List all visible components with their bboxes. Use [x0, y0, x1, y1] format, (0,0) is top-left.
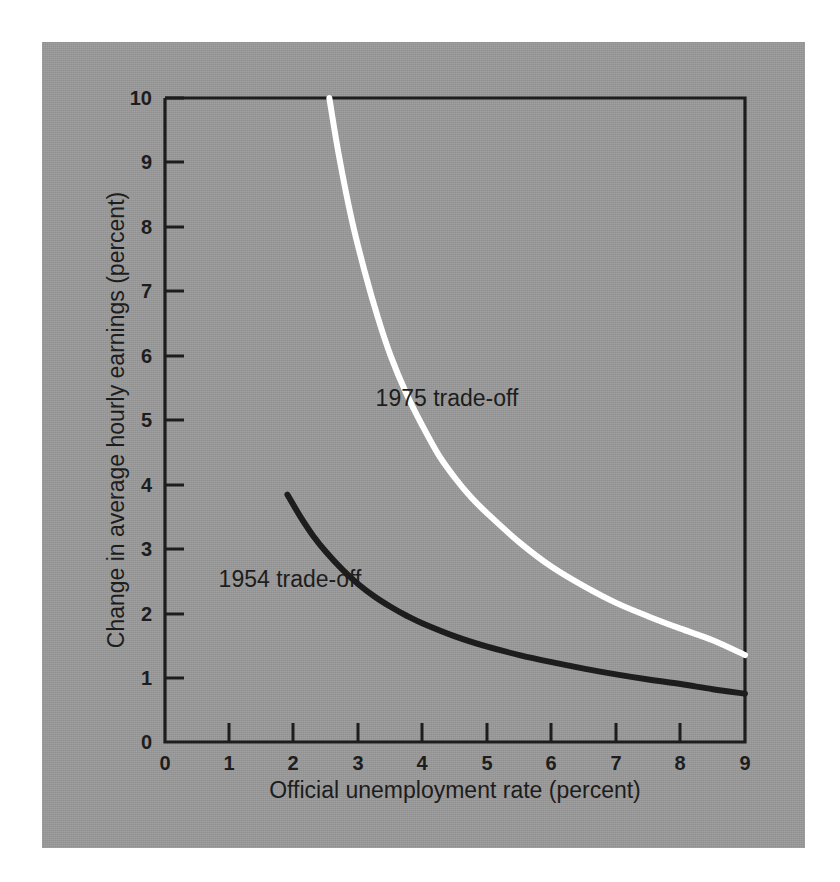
y-tick-label-5: 5 [141, 409, 152, 432]
y-tick-label-8: 8 [141, 216, 152, 239]
x-tick-label-1: 1 [223, 752, 234, 775]
y-tick-label-6: 6 [141, 345, 152, 368]
series-annotation-1954-trade-off: 1954 trade-off [219, 566, 362, 593]
y-tick-label-10: 10 [130, 87, 152, 110]
figure-root: 10 9 8 7 6 5 4 3 2 1 0 0 1 2 3 4 5 6 7 8… [0, 0, 840, 882]
chart-plate-background [42, 42, 805, 848]
x-tick-label-7: 7 [610, 752, 621, 775]
y-tick-label-2: 2 [141, 603, 152, 626]
x-tick-label-2: 2 [287, 752, 298, 775]
y-axis-title: Change in average hourly earnings (perce… [103, 192, 130, 648]
y-tick-label-7: 7 [141, 280, 152, 303]
x-tick-label-6: 6 [545, 752, 556, 775]
x-tick-label-4: 4 [416, 752, 427, 775]
x-tick-label-5: 5 [481, 752, 492, 775]
y-tick-label-9: 9 [141, 151, 152, 174]
x-axis-title: Official unemployment rate (percent) [269, 777, 641, 804]
y-tick-label-4: 4 [141, 474, 152, 497]
x-tick-label-3: 3 [352, 752, 363, 775]
y-tick-label-1: 1 [141, 667, 152, 690]
series-annotation-1975-trade-off: 1975 trade-off [376, 385, 519, 412]
y-tick-label-0: 0 [141, 731, 152, 754]
x-tick-label-0: 0 [159, 752, 170, 775]
x-tick-label-9: 9 [739, 752, 750, 775]
y-tick-label-3: 3 [141, 538, 152, 561]
x-tick-label-8: 8 [674, 752, 685, 775]
